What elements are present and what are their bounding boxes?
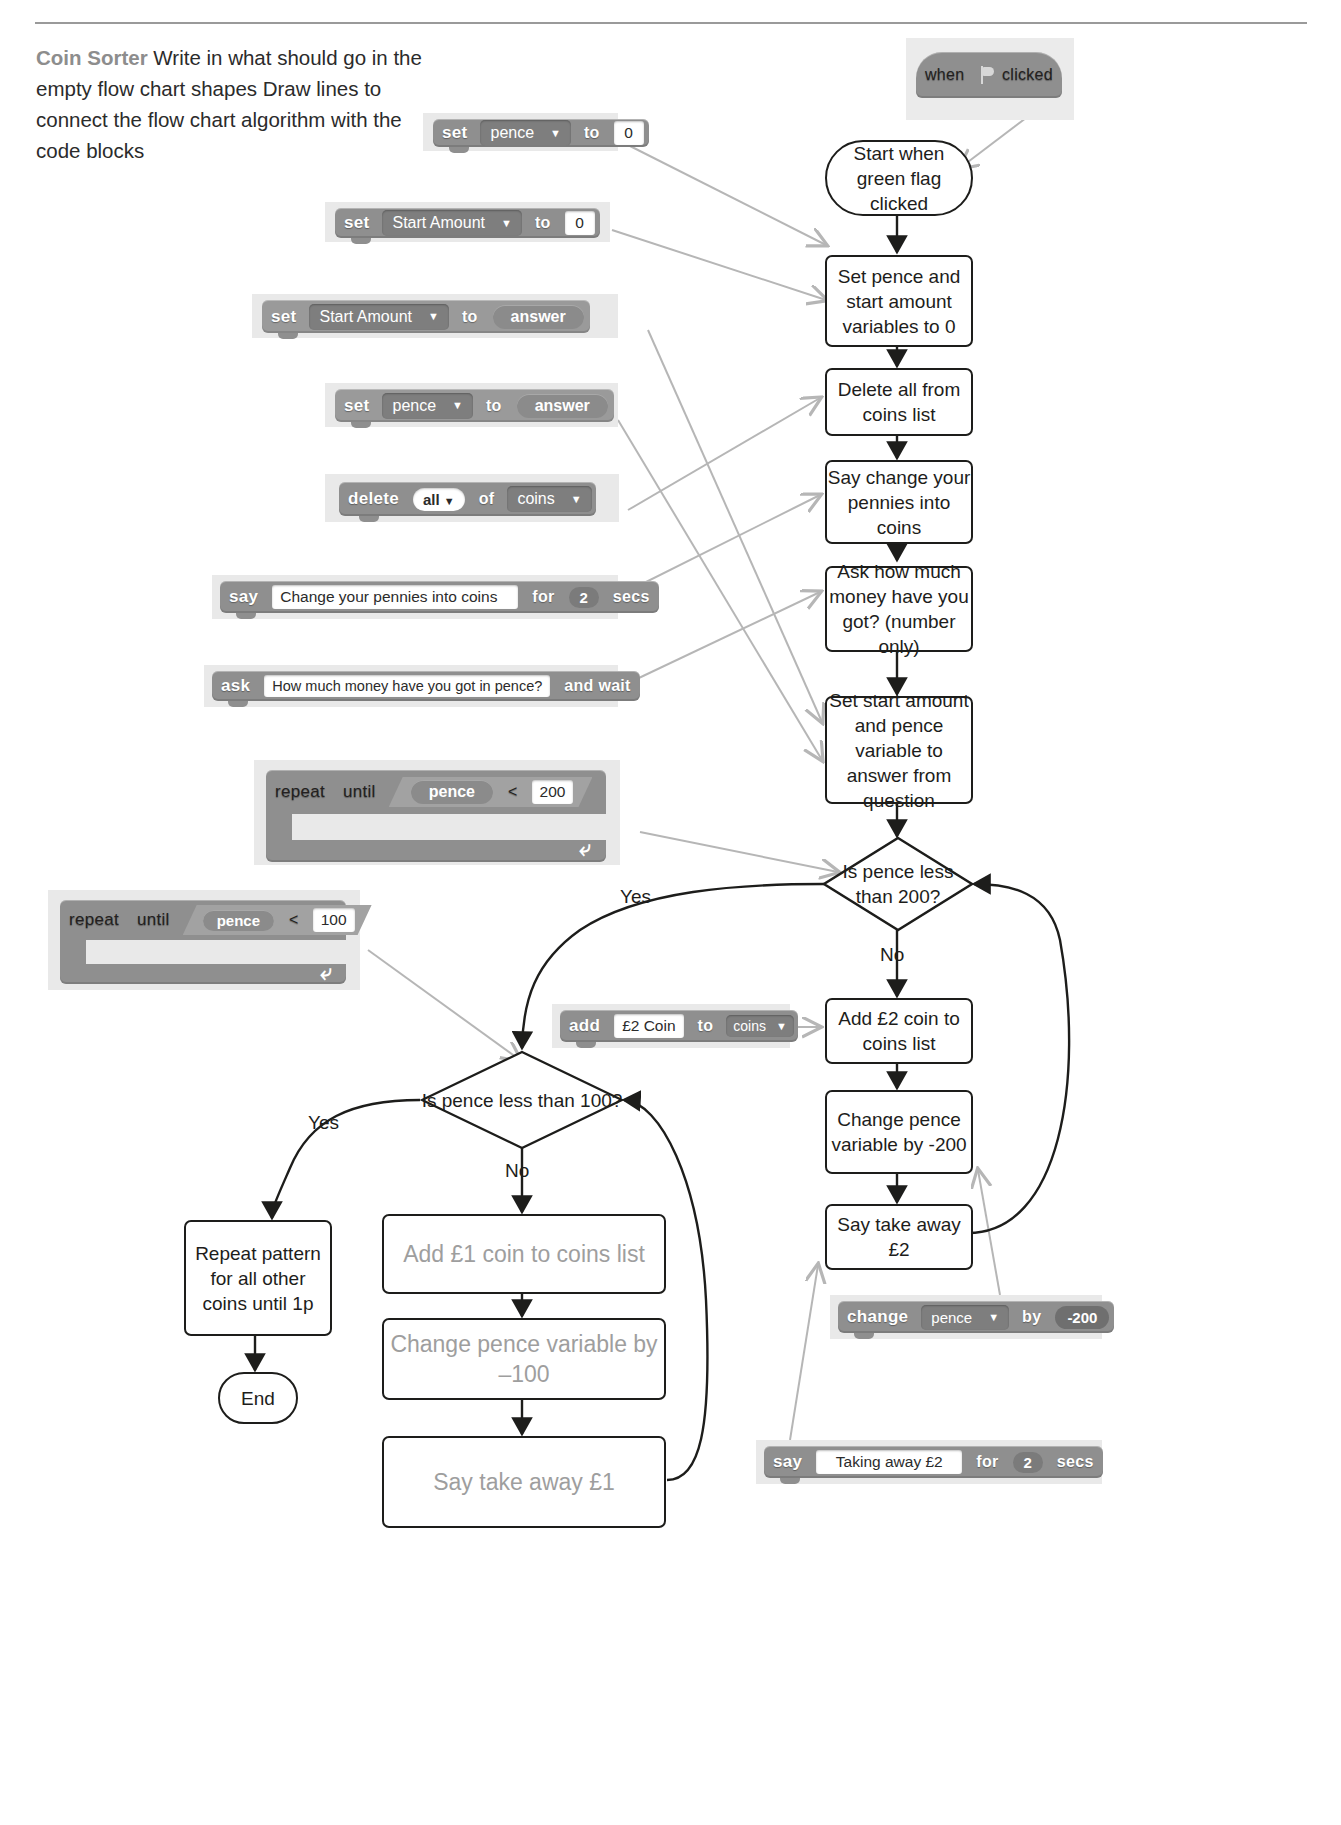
comparison-value[interactable]: 100 — [313, 908, 355, 932]
variable-dropdown-start-amount[interactable]: Start Amount ▼ — [309, 304, 448, 330]
node-text: Say take away £1 — [433, 1467, 615, 1497]
scratch-block-add-e2-coin[interactable]: add £2 Coin to coins ▼ — [552, 1004, 790, 1048]
block-keyword-to: to — [453, 308, 487, 326]
flowchart-node-ask-money: Ask how much money have you got? (number… — [825, 566, 973, 652]
chevron-down-icon: ▼ — [428, 311, 439, 322]
dropdown-value: pence — [490, 124, 534, 142]
flowchart-node-set-answer: Set start amount and pence variable to a… — [825, 696, 973, 804]
answer-reporter[interactable]: answer — [493, 305, 584, 329]
block-keyword-set: set — [335, 213, 378, 233]
block-keyword-when: when — [916, 66, 973, 84]
branch-label-no-100: No — [505, 1160, 529, 1182]
scratch-block-say-change-pennies[interactable]: say Change your pennies into coins for 2… — [212, 575, 618, 619]
scratch-block-delete-all-of-coins[interactable]: delete all ▼ of coins ▼ — [325, 474, 619, 522]
item-input[interactable]: £2 Coin — [614, 1014, 683, 1038]
block-keyword-for: for — [523, 588, 563, 606]
dropdown-value: coins — [517, 490, 554, 508]
node-text: Add £1 coin to coins list — [403, 1239, 645, 1269]
value-input[interactable]: 0 — [565, 211, 595, 235]
block-keyword-and-wait: and wait — [555, 677, 639, 695]
flowchart-node-repeat-pattern: Repeat pattern for all other coins until… — [184, 1220, 332, 1336]
block-keyword-say: say — [764, 1452, 811, 1472]
flowchart-node-end: End — [218, 1372, 298, 1424]
scratch-block-change-pence-200[interactable]: change pence ▼ by -200 — [830, 1295, 1102, 1339]
scratch-block-repeat-until-100[interactable]: repeat until pence < 100 ⤶ — [48, 890, 360, 990]
node-text: Ask how much money have you got? (number… — [827, 559, 971, 659]
top-rule — [35, 22, 1307, 24]
node-text: Is pence less than 200? — [822, 836, 974, 932]
block-keyword-secs: secs — [1048, 1453, 1103, 1471]
node-text: Change pence variable by –100 — [384, 1329, 664, 1389]
branch-label-no-200: No — [880, 944, 904, 966]
flowchart-node-delete-coins: Delete all from coins list — [825, 368, 973, 436]
block-keyword-ask: ask — [212, 676, 259, 696]
index-dropdown-all[interactable]: all ▼ — [413, 488, 465, 511]
block-keyword-by: by — [1013, 1308, 1050, 1326]
block-keyword-until: until — [334, 782, 385, 802]
chevron-down-icon: ▼ — [571, 494, 582, 505]
chevron-down-icon: ▼ — [550, 128, 561, 139]
block-keyword-say: say — [220, 587, 267, 607]
variable-dropdown-pence[interactable]: pence ▼ — [921, 1305, 1009, 1330]
scratch-block-ask-how-much-money[interactable]: ask How much money have you got in pence… — [204, 665, 618, 707]
list-dropdown-coins[interactable]: coins ▼ — [507, 486, 591, 512]
scratch-block-set-start-amount-0[interactable]: set Start Amount ▼ to 0 — [325, 202, 610, 242]
flowchart-node-set-vars: Set pence and start amount variables to … — [825, 255, 973, 347]
less-than-operator[interactable]: pence < 200 — [389, 777, 593, 807]
seconds-input[interactable]: 2 — [569, 587, 599, 608]
chevron-down-icon: ▼ — [452, 400, 463, 411]
comparison-value[interactable]: 200 — [532, 780, 574, 804]
list-dropdown-coins[interactable]: coins ▼ — [726, 1015, 794, 1037]
block-keyword-repeat: repeat — [60, 910, 128, 930]
less-than-operator[interactable]: pence < 100 — [183, 905, 372, 935]
flowchart-node-say-takeaway-e2: Say take away £2 — [825, 1204, 973, 1270]
loop-arrow-icon: ⤶ — [579, 838, 591, 860]
block-keyword-repeat: repeat — [266, 782, 334, 802]
scratch-block-when-green-flag-clicked[interactable]: when clicked — [906, 38, 1074, 120]
dropdown-value: Start Amount — [319, 308, 412, 326]
message-input[interactable]: Change your pennies into coins — [272, 585, 518, 609]
block-keyword-set: set — [262, 307, 305, 327]
scratch-block-say-taking-away-e2[interactable]: say Taking away £2 for 2 secs — [756, 1440, 1102, 1484]
node-text: Change pence variable by -200 — [827, 1107, 971, 1157]
block-keyword-to: to — [575, 124, 609, 142]
flowchart-node-decision-100: Is pence less than 100? — [420, 1050, 624, 1150]
block-keyword-add: add — [560, 1016, 609, 1036]
variable-reporter-pence[interactable]: pence — [203, 910, 274, 931]
value-input[interactable]: 0 — [614, 121, 644, 145]
variable-reporter-pence[interactable]: pence — [411, 780, 493, 804]
chevron-down-icon: ▼ — [501, 218, 512, 229]
page-instructions: Coin Sorter Write in what should go in t… — [36, 42, 436, 166]
branch-label-yes-200: Yes — [620, 886, 651, 908]
message-input[interactable]: Taking away £2 — [816, 1450, 962, 1474]
scratch-block-repeat-until-200[interactable]: repeat until pence < 200 ⤶ — [254, 760, 620, 865]
block-keyword-to: to — [477, 397, 511, 415]
block-keyword-change: change — [838, 1307, 917, 1327]
seconds-input[interactable]: 2 — [1013, 1452, 1043, 1473]
answer-reporter[interactable]: answer — [517, 394, 608, 418]
block-keyword-set: set — [433, 123, 476, 143]
variable-dropdown-pence[interactable]: pence ▼ — [480, 120, 570, 146]
scratch-block-set-pence-answer[interactable]: set pence ▼ to answer — [325, 383, 618, 427]
dropdown-value: pence — [931, 1309, 972, 1326]
block-keyword-set: set — [335, 396, 378, 416]
node-text: Add £2 coin to coins list — [827, 1006, 971, 1056]
green-flag-icon — [979, 66, 987, 84]
node-text: End — [241, 1386, 275, 1411]
scratch-block-set-pence-0[interactable]: set pence ▼ to 0 — [423, 113, 618, 151]
block-keyword-to: to — [689, 1017, 723, 1035]
amount-input[interactable]: -200 — [1055, 1306, 1109, 1329]
block-keyword-until: until — [128, 910, 179, 930]
chevron-down-icon: ▼ — [988, 1312, 999, 1323]
variable-dropdown-start-amount[interactable]: Start Amount ▼ — [382, 210, 521, 236]
flowchart-node-say-change: Say change your pennies into coins — [825, 460, 973, 544]
block-keyword-for: for — [967, 1453, 1007, 1471]
node-text: Say take away £2 — [827, 1212, 971, 1262]
node-text: Repeat pattern for all other coins until… — [186, 1241, 330, 1316]
question-input[interactable]: How much money have you got in pence? — [264, 675, 550, 697]
flowchart-node-add-e1: Add £1 coin to coins list — [382, 1214, 666, 1294]
block-keyword-of: of — [470, 490, 504, 508]
variable-dropdown-pence[interactable]: pence ▼ — [382, 393, 472, 419]
operator-symbol: < — [499, 783, 527, 801]
scratch-block-set-start-amount-answer[interactable]: set Start Amount ▼ to answer — [252, 294, 618, 338]
